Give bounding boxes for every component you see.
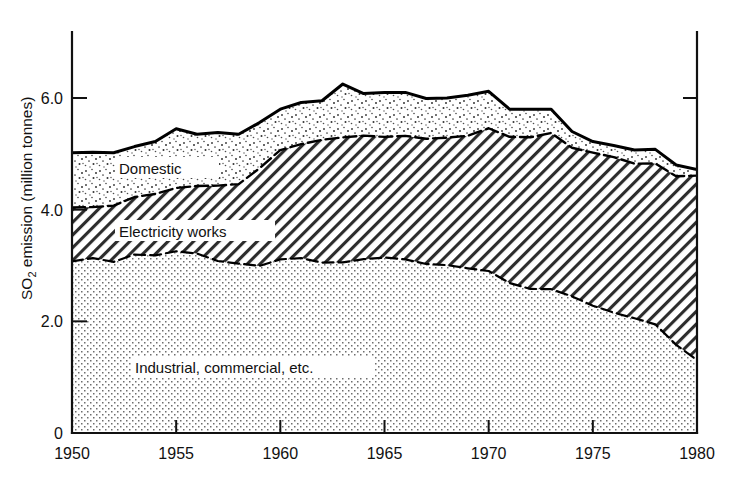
y-axis-title: SO2 emission (million tonnes)	[18, 97, 38, 300]
y-tick-label-2.0: 2.0	[41, 313, 63, 330]
series-label-electricity: Electricity works	[119, 223, 227, 240]
x-tick-label-1980: 1980	[679, 445, 715, 462]
y-tick-label-4.0: 4.0	[41, 202, 63, 219]
y-tick-label-0: 0	[54, 425, 63, 442]
x-tick-label-1965: 1965	[367, 445, 403, 462]
x-tick-label-1970: 1970	[471, 445, 507, 462]
x-tick-label-1950: 1950	[54, 445, 90, 462]
so2-emission-chart: Domestic Electricity works Industrial, c…	[0, 0, 749, 482]
chart-figure: Domestic Electricity works Industrial, c…	[0, 0, 749, 482]
y-axis-title-so: SO	[18, 278, 35, 300]
x-tick-label-1975: 1975	[575, 445, 611, 462]
y-tick-label-6.0: 6.0	[41, 90, 63, 107]
x-tick-label-1955: 1955	[158, 445, 194, 462]
y-axis-title-rest: emission (million tonnes)	[18, 97, 35, 272]
x-tick-label-1960: 1960	[263, 445, 299, 462]
series-label-industrial: Industrial, commercial, etc.	[135, 359, 313, 376]
series-label-domestic: Domestic	[119, 160, 182, 177]
